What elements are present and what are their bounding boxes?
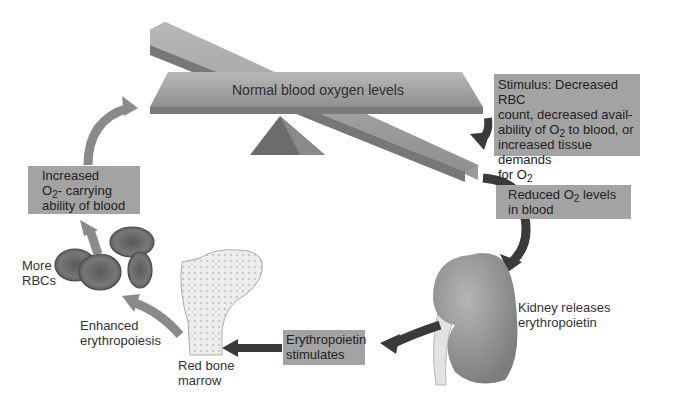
arrow-to-normal <box>88 108 128 165</box>
rbcs-label: MoreRBCs <box>22 258 56 288</box>
kidney-label: Kidney releaseserythropoietin <box>518 300 611 330</box>
arrow-rbc-to-increased <box>90 230 98 254</box>
increased-box: Increased O2- carrying ability of blood <box>28 166 140 214</box>
stimulus-line4: increased tissue demands <box>498 137 636 167</box>
stimulus-line1: Stimulus: Decreased RBC <box>498 77 636 107</box>
normal-levels-label: Normal blood oxygen levels <box>232 82 404 98</box>
marrow-label: Red bonemarrow <box>178 358 234 388</box>
reduced-line2: in blood <box>508 202 619 217</box>
reduced-o2-box: Reduced O2 levels in blood <box>496 185 631 219</box>
stimulus-line3: ability of O2 to blood, or <box>498 122 636 137</box>
enhanced-label: Enhancederythropoiesis <box>80 318 161 348</box>
stimulus-line5: for O2 <box>498 167 636 182</box>
epo-box: Erythropoietinstimulates <box>283 330 365 365</box>
reduced-line1: Reduced O2 levels <box>508 187 619 202</box>
arrow-to-kidney <box>512 218 526 262</box>
rbc-cluster-icon <box>55 227 154 290</box>
stimulus-line2: count, decreased avail- <box>498 107 636 122</box>
bone-icon <box>181 250 263 355</box>
stimulus-box: Stimulus: Decreased RBC count, decreased… <box>494 74 640 156</box>
kidney-icon <box>433 253 518 385</box>
